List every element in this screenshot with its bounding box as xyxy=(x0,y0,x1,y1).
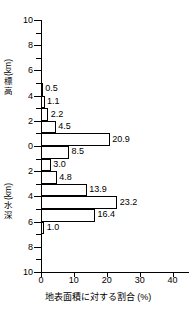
y-tick-label: 6 xyxy=(11,218,33,227)
bar xyxy=(41,146,69,159)
bar-value-label: 4.5 xyxy=(58,122,71,131)
bar-value-label: 13.9 xyxy=(89,185,107,194)
y-tick-minor xyxy=(36,58,41,59)
y-tick-label: 6 xyxy=(11,66,33,75)
y-tick-major xyxy=(34,20,41,21)
bar-value-label: 23.2 xyxy=(120,198,138,207)
bar-value-label: 16.4 xyxy=(97,210,115,219)
hypsometric-bar-chart: 1086420246810 010203040 0.51.12.24.520.9… xyxy=(0,0,196,315)
bar xyxy=(41,222,44,235)
y-tick-major xyxy=(34,272,41,273)
bar xyxy=(41,196,117,209)
bar xyxy=(41,121,56,134)
x-tick-label: 20 xyxy=(95,276,119,285)
bar-value-label: 20.9 xyxy=(112,135,130,144)
y-tick-minor xyxy=(36,33,41,34)
bar xyxy=(41,108,48,121)
y-tick-major xyxy=(34,247,41,248)
elevation-title-label: 標高 xyxy=(2,76,14,96)
y-tick-label: 8 xyxy=(11,41,33,50)
y-tick-major xyxy=(34,121,41,122)
y-tick-minor xyxy=(36,234,41,235)
y-tick-major xyxy=(34,45,41,46)
y-axis-title-depth: (km) 水深 xyxy=(2,188,14,220)
y-tick-major xyxy=(34,146,41,147)
bar xyxy=(41,83,43,96)
depth-title-label: 水深 xyxy=(2,200,14,220)
y-tick-label: 4 xyxy=(11,92,33,101)
bar-value-label: 0.5 xyxy=(45,84,58,93)
y-axis-title-elevation: (km) 標高 xyxy=(2,64,14,96)
x-tick-label: 10 xyxy=(62,276,86,285)
y-tick-major xyxy=(34,196,41,197)
y-tick-label: 2 xyxy=(11,117,33,126)
bar xyxy=(41,209,95,222)
y-tick-minor xyxy=(36,259,41,260)
bar-value-label: 8.5 xyxy=(71,147,84,156)
depth-unit-label: (km) xyxy=(3,188,13,200)
y-tick-label: 2 xyxy=(11,167,33,176)
bar-value-label: 2.2 xyxy=(51,110,64,119)
bar-value-label: 1.1 xyxy=(47,97,60,106)
x-tick-label: 30 xyxy=(128,276,152,285)
bar xyxy=(41,171,57,184)
bar xyxy=(41,184,87,197)
bar xyxy=(41,159,51,172)
y-tick-label: 8 xyxy=(11,243,33,252)
y-tick-major xyxy=(34,222,41,223)
x-tick-label: 0 xyxy=(29,276,53,285)
bar xyxy=(41,96,45,109)
bar-value-label: 4.8 xyxy=(59,173,72,182)
bar-value-label: 3.0 xyxy=(53,160,66,169)
x-axis-caption: 地表面積に対する割合 (%) xyxy=(0,292,196,303)
y-tick-major xyxy=(34,171,41,172)
y-tick-label: 0 xyxy=(11,142,33,151)
elevation-unit-label: (km) xyxy=(3,64,13,76)
y-tick-major xyxy=(34,96,41,97)
bar xyxy=(41,133,110,146)
y-tick-label: 4 xyxy=(11,192,33,201)
y-tick-major xyxy=(34,70,41,71)
x-axis-line xyxy=(41,272,189,273)
bar-value-label: 1.0 xyxy=(47,223,60,232)
y-tick-label: 10 xyxy=(11,16,33,25)
x-tick-label: 40 xyxy=(161,276,185,285)
